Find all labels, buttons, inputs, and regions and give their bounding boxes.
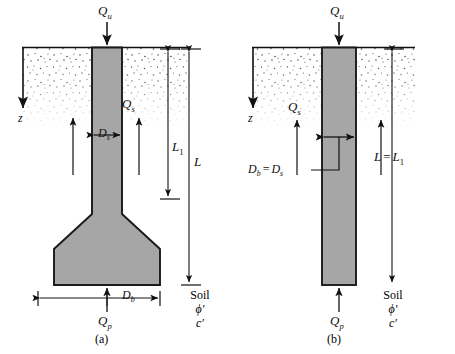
point-load-label-a: Qp (98, 314, 112, 330)
depth-axis-label-b: z (248, 112, 253, 124)
base-diameter-dim-a (38, 291, 160, 306)
soil-material-b: Soil (373, 289, 413, 303)
soil-note-a: Soil ϕ′ c′ (180, 289, 220, 330)
soil-note-b: Soil ϕ′ c′ (373, 289, 413, 330)
applied-load-label-b: Qu (330, 4, 344, 20)
applied-load-label-a: Qu (98, 4, 112, 20)
soil-cohesion-a: c′ (180, 317, 220, 331)
diameter-relation-label-b: Db=Ds (248, 163, 283, 178)
skin-friction-label-b: Qs (288, 100, 301, 116)
base-diameter-label-a: Db (122, 289, 135, 304)
depth-axis-label-a: z (18, 112, 23, 124)
point-load-label-b: Qp (330, 314, 344, 330)
shaft-diameter-label-a: Ds (98, 127, 110, 142)
soil-friction-angle-b: ϕ′ (373, 303, 413, 317)
skin-friction-label-a: Qs (122, 97, 135, 113)
length-L-label-a: L (194, 155, 201, 168)
panel-caption-b: (b) (327, 332, 341, 347)
panel-a (22, 22, 201, 312)
length-L1-label-a: L1 (172, 140, 184, 156)
panel-caption-a: (a) (95, 332, 108, 347)
soil-cohesion-b: c′ (373, 317, 413, 331)
soil-friction-angle-a: ϕ′ (180, 303, 220, 317)
length-relation-label-b: L=L1 (374, 150, 404, 166)
soil-material-a: Soil (180, 289, 220, 303)
